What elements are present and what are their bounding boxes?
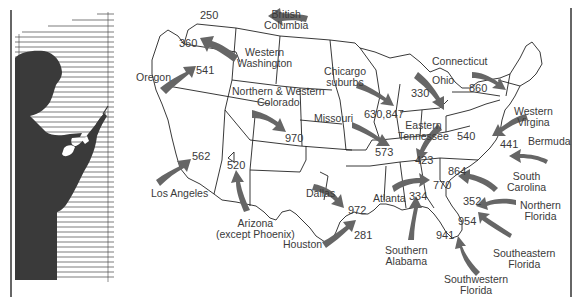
arrow-arizona-icon: [231, 170, 250, 212]
arrow-southern-alabama-icon: [408, 196, 422, 240]
code-south-carolina: 864: [448, 166, 466, 177]
code-eastern-tennessee: 423: [415, 155, 433, 166]
label-los-angeles: Los Angeles: [151, 188, 208, 199]
code-atlanta: 770: [433, 180, 451, 191]
area-code-map-figure: BritishColumbia 250 WesternWashington 36…: [0, 0, 583, 301]
label-western-washington: WesternWashington: [237, 47, 292, 69]
code-missouri: 573: [375, 147, 393, 158]
arrow-northern-florida-icon: [476, 197, 516, 210]
label-western-virginia: WesternVirgina: [514, 106, 553, 128]
code-bermuda: 441: [500, 139, 518, 150]
code-southeastern-florida: 954: [458, 216, 476, 227]
code-oregon: 541: [196, 65, 214, 76]
label-houston: Houston: [283, 239, 322, 250]
label-connecticut: Connecticut: [432, 56, 487, 67]
arrow-western-washington-icon: [200, 36, 238, 62]
code-western-washington: 360: [179, 38, 197, 49]
arrow-southeastern-florida-icon: [478, 212, 512, 238]
code-southern-alabama: 334: [409, 191, 427, 202]
code-western-virginia: 540: [457, 131, 475, 142]
label-bermuda: Bermuda: [528, 136, 571, 147]
code-southwestern-florida: 941: [436, 230, 454, 241]
arrow-los-angeles-icon: [156, 159, 191, 186]
label-south-carolina: SouthCarolina: [507, 171, 546, 193]
code-chicago-suburbs: 630,847: [364, 109, 404, 120]
label-atlanta: Atlanta: [373, 193, 406, 204]
arrow-southwestern-florida-icon: [455, 236, 480, 276]
code-colorado: 970: [285, 133, 303, 144]
label-oregon: Oregon: [136, 72, 171, 83]
code-arizona: 520: [227, 160, 245, 171]
label-ohio: Ohio: [432, 75, 454, 86]
label-southern-alabama: SouthernAlabama: [385, 245, 428, 267]
label-arizona: Arizona(except Phoenix): [216, 218, 295, 240]
person-silhouette-icon: [15, 51, 106, 280]
label-chicago-suburbs: Chicargosuburbs: [324, 66, 366, 88]
label-missouri: Missouri: [314, 113, 353, 124]
code-los-angeles: 562: [192, 151, 210, 162]
label-southeastern-florida: SoutheasternFlorida: [493, 248, 555, 270]
label-eastern-tennessee: EasternTennessee: [398, 120, 449, 142]
label-british-columbia: BritishColumbia: [264, 9, 308, 31]
code-houston: 281: [354, 230, 372, 241]
arrow-bermuda-icon: [509, 149, 548, 164]
arrows: [156, 8, 548, 276]
label-northern-florida: NorthernFlorida: [520, 200, 561, 222]
code-connecticut: 860: [469, 83, 487, 94]
code-dallas: 972: [348, 205, 366, 216]
arrow-colorado-icon: [252, 110, 286, 132]
label-colorado: Northern & WesternColorado: [232, 86, 325, 108]
code-british-columbia: 250: [200, 10, 218, 21]
label-southwestern-florida: SouthwesternFlorida: [444, 274, 508, 296]
label-dallas: Dallas: [306, 188, 335, 199]
code-northern-florida: 352: [463, 196, 481, 207]
code-ohio: 330: [411, 88, 429, 99]
